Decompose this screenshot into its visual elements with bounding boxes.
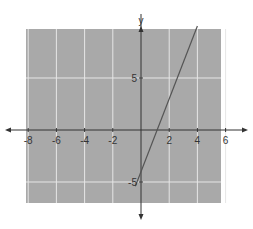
x-tick-label: -2 — [108, 135, 117, 146]
arrow-left-icon — [5, 128, 11, 133]
y-tick-label: 5 — [131, 73, 137, 84]
plot-background — [26, 29, 221, 203]
x-tick-label: 6 — [223, 135, 229, 146]
arrow-right-icon — [242, 128, 248, 133]
x-tick-label: -4 — [80, 135, 89, 146]
x-tick-label: -6 — [52, 135, 61, 146]
arrow-down-icon — [139, 214, 144, 220]
y-axis-label: y — [139, 15, 144, 26]
x-tick-label: 4 — [195, 135, 201, 146]
coordinate-plane: -8-6-4-22465-5 y — [0, 0, 253, 229]
x-tick-label: 2 — [166, 135, 172, 146]
x-tick-label: -8 — [24, 135, 33, 146]
y-tick-label: -5 — [128, 177, 137, 188]
